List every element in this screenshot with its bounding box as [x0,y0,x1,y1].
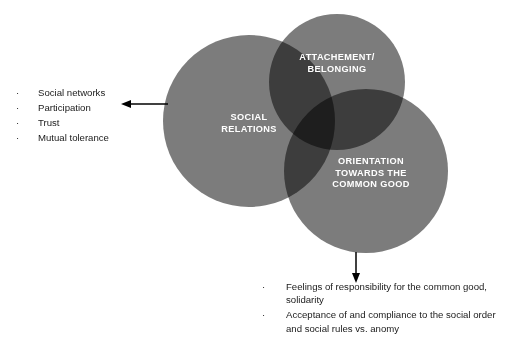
left-annotation-list: · Social networks · Participation · Trus… [16,86,141,146]
list-item-label: Acceptance of and compliance to the soci… [286,308,514,334]
bullet-marker: · [16,101,38,114]
bullet-marker: · [16,131,38,144]
bullet-marker: · [16,116,38,129]
venn-label-orientation-common-good: ORIENTATION TOWARDS THE COMMON GOOD [307,156,435,191]
list-item: · Mutual tolerance [16,131,141,144]
bullet-marker: · [262,308,286,321]
list-item-label: Mutual tolerance [38,131,141,144]
venn-label-attachment-belonging: ATTACHEMENT/ BELONGING [272,52,402,75]
list-item: · Trust [16,116,141,129]
list-item: · Social networks [16,86,141,99]
bullet-marker: · [262,280,286,293]
list-item-label: Social networks [38,86,141,99]
list-item-label: Participation [38,101,141,114]
list-item-label: Feelings of responsibility for the commo… [286,280,514,306]
list-item: · Feelings of responsibility for the com… [262,280,514,306]
list-item: · Acceptance of and compliance to the so… [262,308,514,334]
venn-label-social-relations: SOCIAL RELATIONS [193,112,305,135]
bottom-annotation-list: · Feelings of responsibility for the com… [262,280,514,337]
list-item: · Participation [16,101,141,114]
list-item-label: Trust [38,116,141,129]
diagram-canvas: ATTACHEMENT/ BELONGING SOCIAL RELATIONS … [0,0,520,346]
bullet-marker: · [16,86,38,99]
